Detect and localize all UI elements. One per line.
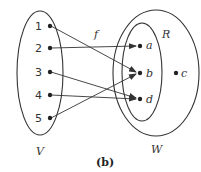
- label-a: a: [146, 39, 153, 52]
- set-w-label: W: [151, 143, 164, 156]
- point-a: [138, 44, 142, 48]
- figure-caption: (b): [96, 156, 114, 169]
- set-v-label: V: [36, 145, 45, 158]
- arrow-3-to-d: [51, 72, 136, 98]
- label-5: 5: [35, 112, 42, 125]
- label-4: 4: [35, 89, 42, 102]
- set-r-label: R: [161, 28, 170, 41]
- point-3: [48, 70, 52, 74]
- label-3: 3: [35, 66, 42, 79]
- label-d: d: [146, 93, 153, 106]
- function-mapping-diagram: 1 2 3 4 5 a b d c R V W f (b): [0, 0, 201, 172]
- point-1: [48, 24, 52, 28]
- point-5: [48, 116, 52, 120]
- point-4: [48, 93, 52, 97]
- point-c: [174, 71, 178, 75]
- arrow-2-to-a: [51, 46, 136, 48]
- point-2: [48, 46, 52, 50]
- set-r-ellipse: [122, 23, 162, 121]
- label-1: 1: [35, 20, 42, 33]
- function-label: f: [93, 28, 100, 41]
- point-d: [138, 97, 142, 101]
- point-b: [138, 71, 142, 75]
- label-2: 2: [35, 42, 42, 55]
- label-b: b: [146, 67, 153, 80]
- label-c: c: [181, 67, 187, 80]
